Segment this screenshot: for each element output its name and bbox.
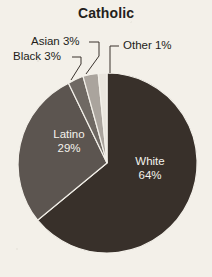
leader-line-asian [86,42,99,74]
slice-label-latino-pct: 29% [35,142,103,156]
callout-label-other: Other 1% [123,39,172,51]
slice-label-latino: Latino 29% [35,128,103,155]
slice-label-latino-name: Latino [53,128,84,140]
pie-chart-figure: Catholic Asian 3% Black 3% Other 1% Lati… [0,0,212,277]
slice-label-white-pct: 64% [119,169,181,183]
callout-label-asian: Asian 3% [31,35,80,47]
leader-line-other [110,46,119,73]
slice-label-white-name: White [135,155,164,167]
callout-label-black: Black 3% [13,50,61,62]
leader-line-black [71,57,81,80]
slice-label-white: White 64% [119,155,181,182]
